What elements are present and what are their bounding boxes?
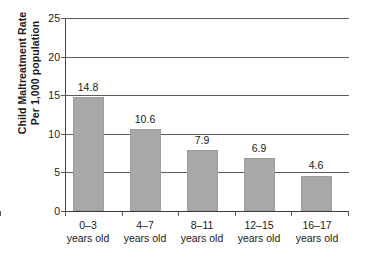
category-label-4-7: 4–7 years old xyxy=(115,219,175,245)
gridline-25 xyxy=(66,18,349,19)
plot-area xyxy=(65,18,349,211)
y-tick-label-15: 15 xyxy=(20,90,60,101)
y-tick-mark-25 xyxy=(61,18,66,19)
bar-0-3-years-old xyxy=(73,97,104,211)
category-label-8-11-range: 8–11 xyxy=(172,219,232,232)
x-tick-mark-1b xyxy=(122,211,123,216)
bar-value-16-17: 4.6 xyxy=(285,160,347,171)
x-tick-mark-1 xyxy=(0,211,1,216)
bar-chart-figure: Child Maltreatment Rate Per 1,000 popula… xyxy=(0,0,368,265)
bar-4-7-years-old xyxy=(130,129,161,211)
category-label-0-3: 0–3 years old xyxy=(58,219,118,245)
bar-12-15-years-old xyxy=(244,158,275,211)
bar-16-17-years-old xyxy=(301,176,332,212)
y-tick-mark-10 xyxy=(61,134,66,135)
x-tick-mark-4 xyxy=(291,211,292,216)
y-tick-label-10: 10 xyxy=(20,129,60,140)
y-tick-mark-20 xyxy=(61,57,66,58)
x-tick-mark-2 xyxy=(178,211,179,216)
category-label-12-15-range: 12–15 xyxy=(229,219,289,232)
category-label-8-11: 8–11 years old xyxy=(172,219,232,245)
bar-value-12-15: 6.9 xyxy=(228,143,290,154)
y-tick-label-0: 0 xyxy=(20,206,60,217)
y-axis-title-line-1: Child Maltreatment Rate xyxy=(16,12,30,135)
bar-8-11-years-old xyxy=(187,150,218,211)
category-label-16-17-range: 16–17 xyxy=(287,219,347,232)
gridline-20 xyxy=(66,57,349,58)
category-label-12-15: 12–15 years old xyxy=(229,219,289,245)
category-label-8-11-unit: years old xyxy=(172,232,232,245)
bar-value-8-11: 7.9 xyxy=(171,135,233,146)
y-tick-label-5: 5 xyxy=(20,167,60,178)
y-tick-label-20: 20 xyxy=(20,52,60,63)
category-label-16-17: 16–17 years old xyxy=(287,219,347,245)
category-label-0-3-range: 0–3 xyxy=(58,219,118,232)
y-axis-title-line-2: Per 1,000 population xyxy=(29,21,43,126)
bar-value-4-7: 10.6 xyxy=(114,114,176,125)
x-tick-mark-5 xyxy=(348,211,349,216)
y-tick-mark-15 xyxy=(61,95,66,96)
x-tick-mark-0 xyxy=(65,211,66,216)
category-label-16-17-unit: years old xyxy=(287,232,347,245)
gridline-15 xyxy=(66,95,349,96)
x-tick-mark-3 xyxy=(235,211,236,216)
bar-value-0-3: 14.8 xyxy=(57,82,119,93)
x-axis-line xyxy=(65,211,349,212)
y-tick-mark-5 xyxy=(61,172,66,173)
y-tick-label-25: 25 xyxy=(20,13,60,24)
category-label-12-15-unit: years old xyxy=(229,232,289,245)
category-label-0-3-unit: years old xyxy=(58,232,118,245)
category-label-4-7-range: 4–7 xyxy=(115,219,175,232)
y-axis-title: Child Maltreatment Rate Per 1,000 popula… xyxy=(12,0,46,168)
category-label-4-7-unit: years old xyxy=(115,232,175,245)
